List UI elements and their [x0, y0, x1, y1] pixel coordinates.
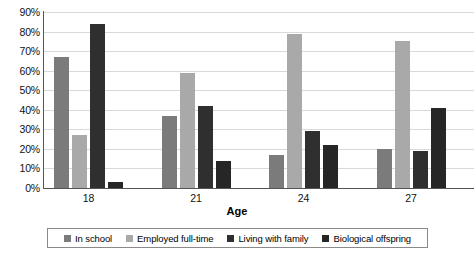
- bar: [323, 145, 338, 188]
- legend-label: Biological offspring: [333, 233, 411, 244]
- y-axis-tick-label: 20%: [0, 143, 40, 155]
- bar: [305, 131, 320, 188]
- bars-layer: [44, 12, 474, 188]
- legend-swatch-icon: [227, 235, 234, 242]
- bar: [180, 73, 195, 188]
- bar-group: [44, 12, 152, 188]
- y-axis-tick-label: 0%: [0, 182, 40, 194]
- x-axis-tick-label: 27: [405, 192, 417, 204]
- y-axis-tick-label: 70%: [0, 45, 40, 57]
- bar: [395, 41, 410, 188]
- y-axis-tick-label: 30%: [0, 123, 40, 135]
- legend-swatch-icon: [64, 235, 71, 242]
- legend-item[interactable]: Biological offspring: [322, 233, 411, 244]
- bar-group: [259, 12, 367, 188]
- chart-legend: In schoolEmployed full-timeLiving with f…: [47, 228, 428, 248]
- bar-group: [367, 12, 474, 188]
- bar: [287, 34, 302, 188]
- x-axis-tick-label: 24: [298, 192, 310, 204]
- legend-label: In school: [75, 233, 112, 244]
- x-axis-line: [43, 188, 474, 189]
- bar-chart: 0%10%20%30%40%50%60%70%80%90% 18212427 A…: [0, 0, 474, 255]
- y-axis-tick-label: 50%: [0, 84, 40, 96]
- y-axis-tick-label: 80%: [0, 26, 40, 38]
- bar: [108, 182, 123, 188]
- legend-swatch-icon: [322, 235, 329, 242]
- x-axis-title: Age: [0, 205, 474, 217]
- bar: [269, 155, 284, 188]
- bar: [54, 57, 69, 188]
- bar: [72, 135, 87, 188]
- bar: [90, 24, 105, 188]
- bar: [377, 149, 392, 188]
- bar: [162, 116, 177, 188]
- legend-item[interactable]: Employed full-time: [126, 233, 213, 244]
- legend-label: Employed full-time: [137, 233, 213, 244]
- bar: [198, 106, 213, 188]
- y-axis-tick-labels: 0%10%20%30%40%50%60%70%80%90%: [0, 12, 40, 188]
- x-axis-tick-label: 21: [190, 192, 202, 204]
- x-axis-tick-label: 18: [83, 192, 95, 204]
- legend-label: Living with family: [238, 233, 308, 244]
- y-axis-tick-label: 40%: [0, 104, 40, 116]
- y-axis-tick-label: 10%: [0, 162, 40, 174]
- legend-swatch-icon: [126, 235, 133, 242]
- plot-area: [44, 12, 474, 188]
- bar: [413, 151, 428, 188]
- y-axis-tick-label: 90%: [0, 6, 40, 18]
- legend-item[interactable]: Living with family: [227, 233, 308, 244]
- bar-group: [152, 12, 260, 188]
- bar: [216, 161, 231, 188]
- legend-item[interactable]: In school: [64, 233, 112, 244]
- bar: [431, 108, 446, 188]
- y-axis-tick-label: 60%: [0, 65, 40, 77]
